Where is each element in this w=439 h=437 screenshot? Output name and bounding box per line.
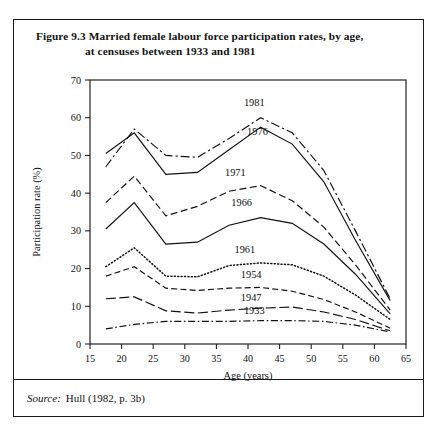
series-label-1976: 1976 xyxy=(247,126,268,137)
x-tick-label: 35 xyxy=(211,353,221,364)
x-tick-label: 15 xyxy=(85,353,95,364)
x-tick-label: 45 xyxy=(275,353,285,364)
line-chart: 0102030405060701520253035404550556065Age… xyxy=(14,64,425,394)
series-label-1981: 1981 xyxy=(244,97,265,108)
figure-frame: Figure 9.3 Married female labour force p… xyxy=(13,19,424,417)
figure-title-line-2: at censuses between 1933 and 1981 xyxy=(36,44,406,59)
x-tick-label: 60 xyxy=(369,353,379,364)
y-tick-label: 60 xyxy=(71,112,81,123)
y-tick-label: 10 xyxy=(71,301,81,312)
y-tick-label: 70 xyxy=(71,75,81,86)
series-label-1961: 1961 xyxy=(234,244,255,255)
chart-plot-area: 0102030405060701520253035404550556065Age… xyxy=(14,64,425,394)
source-label: Source: xyxy=(27,392,61,404)
x-tick-label: 55 xyxy=(338,353,348,364)
series-label-1947: 1947 xyxy=(241,292,262,303)
figure-title-line-1: Figure 9.3 Married female labour force p… xyxy=(36,29,406,44)
figure-title: Figure 9.3 Married female labour force p… xyxy=(36,29,406,58)
series-label-1966: 1966 xyxy=(231,197,252,208)
x-tick-label: 65 xyxy=(401,353,411,364)
y-tick-label: 40 xyxy=(71,188,81,199)
source-note: Source:Hull (1982, p. 3b) xyxy=(27,392,145,404)
y-axis-title: Participation rate (%) xyxy=(31,167,43,256)
x-tick-label: 40 xyxy=(243,353,253,364)
y-tick-label: 0 xyxy=(76,339,81,350)
x-tick-label: 25 xyxy=(148,353,158,364)
series-label-1971: 1971 xyxy=(225,167,246,178)
x-tick-label: 20 xyxy=(117,353,127,364)
y-tick-label: 30 xyxy=(71,225,81,236)
x-tick-label: 50 xyxy=(306,353,316,364)
series-label-1954: 1954 xyxy=(241,269,263,280)
source-divider xyxy=(14,379,423,380)
x-axis-title: Age (years) xyxy=(224,370,273,382)
series-label-1933: 1933 xyxy=(244,305,265,316)
series-line-1933 xyxy=(106,321,390,332)
x-tick-label: 30 xyxy=(180,353,190,364)
y-tick-label: 20 xyxy=(71,263,81,274)
y-tick-label: 50 xyxy=(71,150,81,161)
source-text: Hull (1982, p. 3b) xyxy=(66,392,145,404)
